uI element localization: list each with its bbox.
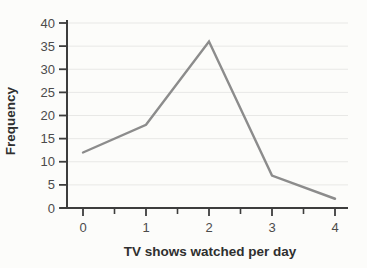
x-tick-label: 4 — [331, 220, 338, 235]
y-tick-label: 10 — [41, 154, 55, 169]
chart-canvas: 051015202530354001234 TV shows watched p… — [0, 0, 367, 268]
frequency-polygon-chart: 051015202530354001234 TV shows watched p… — [0, 0, 367, 268]
y-tick-label: 20 — [41, 108, 55, 123]
x-tick-label: 3 — [268, 220, 275, 235]
axis-ticks — [59, 23, 335, 216]
y-tick-label: 25 — [41, 85, 55, 100]
x-tick-label: 2 — [205, 220, 212, 235]
frequency-line-series — [83, 42, 335, 199]
y-gridlines — [67, 23, 348, 185]
x-tick-label: 0 — [79, 220, 86, 235]
x-tick-label: 1 — [142, 220, 149, 235]
y-tick-label: 35 — [41, 39, 55, 54]
y-tick-label: 30 — [41, 62, 55, 77]
frequency-line — [83, 42, 335, 199]
y-tick-label: 5 — [48, 177, 55, 192]
x-axis-title: TV shows watched per day — [124, 244, 297, 259]
y-axis-title: Frequency — [3, 86, 18, 155]
y-tick-label: 15 — [41, 131, 55, 146]
y-tick-label: 40 — [41, 16, 55, 31]
tick-labels: 051015202530354001234 — [41, 16, 339, 236]
y-tick-label: 0 — [48, 201, 55, 216]
